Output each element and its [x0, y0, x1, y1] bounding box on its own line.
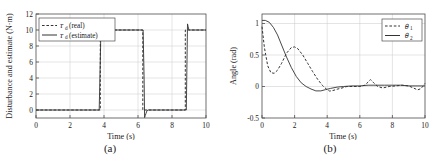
svg-text:10: 10 — [202, 121, 210, 130]
xtick-labels-a: 0 2 4 6 8 10 — [34, 121, 210, 130]
svg-text:0: 0 — [29, 106, 33, 115]
panel-caption-a: (a) — [0, 142, 220, 154]
svg-text:6: 6 — [29, 58, 33, 67]
panel-b: 𝜃 1 𝜃 2 0 2 4 6 8 10 — [220, 0, 440, 165]
legend-label-b-1: 𝜃 — [405, 23, 409, 31]
svg-text:10: 10 — [26, 26, 34, 35]
chart-b: 𝜃 1 𝜃 2 0 2 4 6 8 10 — [220, 0, 440, 140]
legend-a: 𝜏 d (real) 𝜏 d (estimate) — [39, 18, 115, 41]
legend-b: 𝜃 1 𝜃 2 — [382, 19, 422, 41]
panel-caption-b: (b) — [220, 142, 440, 154]
legend-sub-b-2: 2 — [410, 35, 413, 41]
svg-text:8: 8 — [170, 121, 174, 130]
svg-text:12: 12 — [26, 10, 34, 19]
svg-text:0: 0 — [34, 121, 38, 130]
legend-label-b-2: 𝜃 — [405, 32, 409, 40]
xtick-labels-b: 0 2 4 6 8 10 — [260, 121, 429, 130]
svg-text:6: 6 — [136, 121, 140, 130]
legend-box-b — [382, 19, 422, 41]
svg-text:2: 2 — [68, 121, 72, 130]
xaxis-label-b: Time (s) — [329, 132, 357, 140]
svg-text:4: 4 — [325, 121, 329, 130]
legend-sub-a-2: d — [65, 34, 68, 40]
svg-text:0: 0 — [255, 82, 259, 91]
legend-label-a-2: 𝜏 — [60, 32, 64, 40]
svg-text:1: 1 — [255, 19, 259, 28]
ytick-labels-b: -0.5 0 0.5 1 — [247, 19, 259, 123]
svg-text:4: 4 — [29, 74, 33, 83]
legend-label-a-1: 𝜏 — [60, 22, 64, 30]
chart-a: 𝜏 d (real) 𝜏 d (estimate) 0 2 4 — [0, 0, 220, 140]
svg-text:2: 2 — [29, 90, 33, 99]
svg-text:8: 8 — [29, 42, 33, 51]
svg-text:-0.5: -0.5 — [247, 114, 259, 123]
xaxis-a — [36, 115, 206, 118]
svg-text:8: 8 — [391, 121, 395, 130]
yaxis-label-a: Disturbance and estimate (N·m) — [5, 13, 14, 119]
figure-container: 𝜏 d (real) 𝜏 d (estimate) 0 2 4 — [0, 0, 440, 165]
svg-text:6: 6 — [358, 121, 362, 130]
series-tau-d-real — [36, 30, 206, 110]
yaxis-label-b: Angle (rad) — [229, 47, 238, 85]
svg-text:0: 0 — [260, 121, 264, 130]
legend-sub-a-1: d — [65, 25, 68, 31]
svg-text:2: 2 — [293, 121, 297, 130]
yaxis-a — [36, 14, 39, 110]
xaxis-b — [262, 115, 425, 118]
ytick-labels-a: 0 2 4 6 8 10 12 — [26, 10, 34, 115]
legend-sub-b-1: 1 — [410, 25, 413, 31]
panel-a: 𝜏 d (real) 𝜏 d (estimate) 0 2 4 — [0, 0, 220, 165]
xaxis-label-a: Time (s) — [107, 132, 135, 140]
svg-text:10: 10 — [421, 121, 429, 130]
svg-text:0.5: 0.5 — [250, 51, 260, 60]
legend-qualifier-a-1: (real) — [69, 22, 85, 30]
svg-text:4: 4 — [102, 121, 106, 130]
legend-qualifier-a-2: (estimate) — [69, 32, 98, 40]
